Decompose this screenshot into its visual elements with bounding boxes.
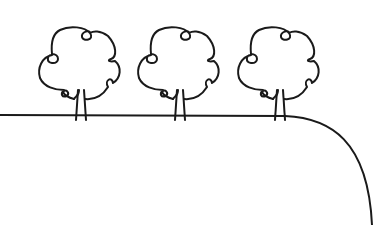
- tree-2: [138, 27, 219, 120]
- tree-3: [238, 27, 319, 120]
- tree-1: [39, 27, 120, 120]
- tree-line-illustration: [0, 0, 377, 225]
- horizon-line: [0, 115, 372, 225]
